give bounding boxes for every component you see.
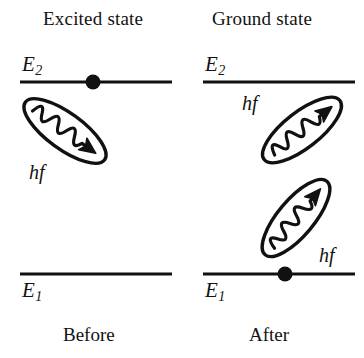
photon-packet-after-upper bbox=[253, 86, 351, 173]
caption-after: After bbox=[249, 324, 289, 346]
photon-arrowhead bbox=[315, 101, 336, 122]
photon-packet-after-lower bbox=[251, 170, 340, 267]
stimulated-emission-diagram: Excited state Ground state E2 E2 E1 E1 h… bbox=[0, 0, 364, 358]
electron-dot-after bbox=[278, 267, 293, 282]
photon-packet-before bbox=[15, 88, 115, 175]
photon-wave-path bbox=[31, 103, 94, 154]
diagram-artwork bbox=[0, 0, 364, 358]
photon-arrowhead bbox=[79, 138, 100, 159]
electron-dot-before bbox=[86, 75, 101, 90]
caption-before: Before bbox=[63, 324, 115, 346]
photon-arrowhead bbox=[305, 184, 326, 205]
photon-wave-path bbox=[266, 190, 319, 250]
